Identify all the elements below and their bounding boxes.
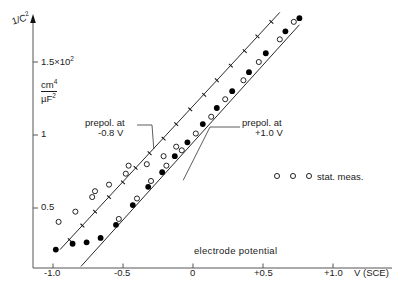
annotation-prepol-neg08: prepol. at -0.8 V — [85, 118, 125, 138]
data-point-stat-meas — [73, 209, 78, 214]
data-point-stat-meas — [90, 195, 95, 200]
series-1 — [53, 15, 302, 266]
y-tick-label-1: 1 — [41, 129, 46, 139]
y-axis-unit-denominator: µF2 — [41, 93, 56, 104]
data-point-stat-meas — [126, 163, 131, 168]
y-axis-unit-numerator: cm4 — [41, 78, 57, 92]
data-point-stat-meas — [148, 178, 153, 183]
annotation-prepol-neg08-line2: -0.8 V — [85, 128, 123, 138]
data-point-stat-meas — [256, 59, 261, 64]
annotation-leader-left — [137, 125, 154, 149]
data-point-stat-meas — [241, 78, 246, 83]
x-tick-label-neg1: -1.0 — [44, 268, 60, 278]
annotation-leader-right — [183, 127, 240, 180]
data-point-stat-meas — [291, 19, 296, 24]
data-point-deviating — [53, 247, 59, 253]
data-point — [185, 139, 191, 145]
data-point-stat-meas — [164, 163, 169, 168]
data-point-stat-meas — [123, 171, 128, 176]
data-point — [113, 222, 119, 228]
data-point — [229, 88, 235, 94]
annotation-prepol-pos10: prepol. at +1.0 V — [242, 118, 283, 138]
legend-marker-open-circle — [274, 173, 279, 178]
data-point-deviating — [98, 235, 104, 241]
y-axis-unit: cm4µF2 — [41, 78, 57, 105]
data-point-stat-meas — [174, 144, 179, 149]
data-point-stat-meas — [116, 216, 121, 221]
mott-schottky-chart: 1/C2 1.5×102 cm4µF2 1 0.5 -1.0 -0.5 0 +0… — [0, 0, 402, 293]
data-point-stat-meas — [161, 154, 166, 159]
data-point — [214, 105, 220, 111]
data-point — [159, 169, 165, 175]
x-tick-label-0: 0 — [190, 268, 195, 278]
x-axis-unit: V (SCE) — [354, 268, 389, 278]
data-point-stat-meas — [56, 219, 61, 224]
data-point-stat-meas — [223, 97, 228, 102]
y-axis-title: 1/C2 — [12, 16, 30, 27]
data-point — [200, 121, 206, 127]
y-tick-label-0p5: 0.5 — [41, 202, 54, 212]
data-point-deviating — [84, 239, 90, 245]
data-point-stat-meas — [209, 114, 214, 119]
x-tick-label-pos0p5: +0.5 — [254, 268, 273, 278]
series-1-fitline — [81, 25, 299, 267]
data-point — [283, 28, 289, 34]
data-point — [130, 202, 136, 208]
legend-marker-open-circle — [306, 173, 311, 178]
data-point-stat-meas — [106, 182, 111, 187]
y-axis-arrowhead — [30, 14, 36, 23]
x-tick-label-neg0p5: -0.5 — [114, 268, 130, 278]
data-point-stat-meas — [144, 162, 149, 167]
data-point-stat-meas — [134, 196, 139, 201]
data-point-stat-meas — [277, 37, 282, 42]
data-point-deviating — [70, 241, 76, 247]
x-tick-label-pos1: +1.0 — [324, 268, 343, 278]
y-tick-label-top: 1.5×102 — [41, 56, 74, 67]
data-point — [145, 184, 151, 190]
legend-marker-open-circle — [290, 173, 295, 178]
annotation-prepol-pos10-line2: +1.0 V — [242, 128, 283, 138]
data-point-stat-meas — [193, 131, 198, 136]
data-point — [263, 50, 269, 56]
x-axis-title: electrode potential — [194, 246, 277, 256]
data-point — [172, 153, 178, 159]
data-point — [246, 69, 252, 75]
legend-label-stat-meas: stat. meas. — [317, 172, 363, 182]
data-point-stat-meas — [92, 189, 97, 194]
data-point-stat-meas — [179, 148, 184, 153]
data-point — [297, 15, 303, 21]
